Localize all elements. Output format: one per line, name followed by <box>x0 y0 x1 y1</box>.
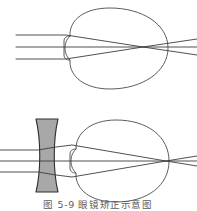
panel-uncorrected <box>16 8 197 89</box>
figure-caption: 图 5-9 眼镜矫正示意图 <box>43 199 152 210</box>
light-ray-bottom-corrected <box>0 156 197 177</box>
figure-container: 图 5-9 眼镜矫正示意图 <box>0 0 197 211</box>
concave-lens <box>36 119 58 192</box>
light-ray-top-uncorrected <box>16 35 197 55</box>
optics-figure-canvas: 图 5-9 眼镜矫正示意图 <box>0 0 197 211</box>
cornea-contour-uncorrected <box>65 36 70 60</box>
light-ray-bottom-uncorrected <box>16 39 197 59</box>
light-ray-top-corrected <box>0 145 197 166</box>
panel-corrected <box>0 119 197 202</box>
